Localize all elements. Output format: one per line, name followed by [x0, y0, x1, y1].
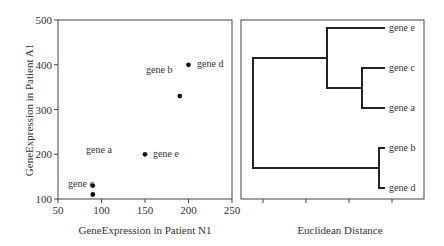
y-axis-label: GeneExpression in Patient A1 — [23, 44, 35, 176]
y-tick-label: 100 — [36, 193, 53, 205]
leaf-label: gene b — [389, 142, 415, 153]
x-tick-label: 200 — [180, 204, 197, 216]
y-tick-label: 400 — [36, 59, 53, 71]
y-tick-label: 200 — [36, 148, 53, 160]
x-tick-label: 50 — [53, 204, 65, 216]
point-label: gene d — [197, 58, 223, 69]
dendrogram: gene e gene c gene a gene b gene d Eucli… — [241, 20, 424, 236]
x-tick-label: 150 — [137, 204, 154, 216]
x-tick-label: 250 — [224, 204, 241, 216]
data-point — [90, 192, 95, 197]
dendrogram-branches — [253, 28, 385, 188]
y-tick-label: 500 — [36, 14, 53, 26]
dendrogram-x-label: Euclidean Distance — [297, 224, 382, 236]
data-point — [186, 62, 191, 67]
x-tick-label: 100 — [93, 204, 110, 216]
leaf-label: gene d — [389, 182, 415, 193]
leaf-label: gene e — [389, 22, 415, 33]
point-label: gene a — [86, 144, 112, 155]
data-point — [177, 94, 182, 99]
point-label: gene b — [146, 64, 172, 75]
point-label: gene c — [68, 178, 94, 189]
y-tick-label: 300 — [36, 104, 53, 116]
figure: 500 400 300 200 100 50 100 150 200 250 G… — [0, 0, 444, 246]
y-ticks — [54, 20, 232, 203]
leaf-label: gene a — [389, 102, 415, 113]
leaf-label: gene c — [389, 62, 415, 73]
x-axis-label: GeneExpression in Patient N1 — [79, 224, 212, 236]
scatter-plot: 500 400 300 200 100 50 100 150 200 250 G… — [23, 14, 241, 236]
dendrogram-ticks — [263, 199, 392, 203]
data-point — [143, 152, 148, 157]
scatter-frame — [58, 20, 232, 199]
point-label: gene e — [153, 148, 179, 159]
